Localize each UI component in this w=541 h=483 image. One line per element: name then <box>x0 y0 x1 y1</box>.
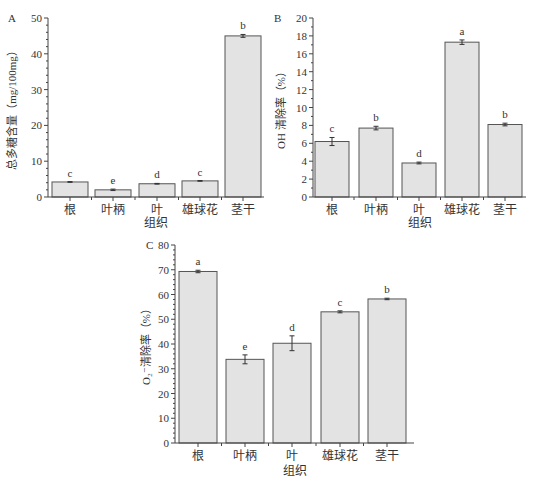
bar-C-4 <box>368 299 406 443</box>
y-tick-label: 16 <box>296 48 308 60</box>
category-label: 雄球花 <box>182 202 218 217</box>
y-tick-label: 0 <box>164 437 170 449</box>
category-label: 茎干 <box>231 203 255 217</box>
y-axis-title: 总多糖含量（mg/100mg） <box>5 45 18 170</box>
significance-label: c <box>338 296 343 308</box>
panel-label: A <box>8 12 16 24</box>
significance-label: b <box>373 111 379 123</box>
y-tick-label: 40 <box>158 338 170 350</box>
bar-C-0 <box>179 271 217 443</box>
y-axis-title: O₂⁻清除率（%） <box>139 303 152 385</box>
y-tick-label: 10 <box>158 412 170 424</box>
bar-A-0 <box>52 182 88 197</box>
bar-A-2 <box>139 184 175 197</box>
bar-B-3 <box>445 42 479 197</box>
y-tick-label: 20 <box>158 388 170 400</box>
x-axis-title: 组织 <box>144 216 168 230</box>
bar-C-1 <box>226 359 264 443</box>
panel-label: C <box>146 239 153 251</box>
y-tick-label: 50 <box>158 313 170 325</box>
category-label: 叶柄 <box>364 203 388 217</box>
category-label: 茎干 <box>493 203 517 217</box>
category-label: 叶 <box>151 203 163 217</box>
category-label: 根 <box>64 203 76 217</box>
y-tick-label: 12 <box>296 84 307 96</box>
category-label: 雄球花 <box>444 202 480 217</box>
significance-label: c <box>68 167 73 179</box>
bar-C-3 <box>321 312 359 443</box>
y-tick-label: 2 <box>302 173 308 185</box>
x-axis-title: 组织 <box>283 464 307 478</box>
y-tick-label: 18 <box>296 30 308 42</box>
bar-B-0 <box>315 142 349 197</box>
category-label: 叶 <box>286 449 298 463</box>
category-label: 雄球花 <box>322 448 358 463</box>
significance-label: d <box>416 147 422 159</box>
y-tick-label: 0 <box>302 191 308 203</box>
y-tick-label: 20 <box>296 12 308 24</box>
significance-label: a <box>460 25 465 37</box>
bar-C-2 <box>273 343 311 443</box>
category-label: 叶 <box>413 203 425 217</box>
category-label: 叶柄 <box>233 449 257 463</box>
panel-label: B <box>274 12 281 24</box>
significance-label: e <box>243 340 248 352</box>
y-tick-label: 50 <box>31 12 43 24</box>
y-tick-label: 30 <box>158 363 170 375</box>
category-label: 茎干 <box>375 449 399 463</box>
category-label: 叶柄 <box>101 203 125 217</box>
significance-label: e <box>111 174 116 186</box>
y-tick-label: 6 <box>302 137 308 149</box>
y-tick-label: 70 <box>158 264 170 276</box>
y-tick-label: 10 <box>31 155 43 167</box>
significance-label: b <box>240 19 246 31</box>
y-axis-title: OH 清除率（%） <box>274 66 287 149</box>
y-tick-label: 60 <box>158 289 170 301</box>
bar-A-4 <box>225 36 261 197</box>
y-tick-label: 0 <box>37 191 43 203</box>
significance-label: d <box>289 321 295 333</box>
significance-label: b <box>502 108 508 120</box>
y-tick-label: 14 <box>296 66 308 78</box>
bar-B-1 <box>359 128 393 197</box>
category-label: 根 <box>192 449 204 463</box>
significance-label: b <box>384 283 390 295</box>
category-label: 根 <box>326 203 338 217</box>
significance-label: d <box>154 168 160 180</box>
y-tick-label: 20 <box>31 119 43 131</box>
y-tick-label: 8 <box>302 119 308 131</box>
significance-label: c <box>330 122 335 134</box>
figure: c根e叶柄d叶c雄球花b茎干01020304050A组织总多糖含量（mg/100… <box>0 0 541 483</box>
significance-label: c <box>198 166 203 178</box>
y-tick-label: 80 <box>158 239 170 251</box>
bar-B-4 <box>488 125 522 197</box>
y-tick-label: 4 <box>302 155 308 167</box>
y-tick-label: 30 <box>31 84 43 96</box>
significance-label: a <box>196 255 201 267</box>
y-tick-label: 10 <box>296 102 308 114</box>
y-tick-label: 40 <box>31 48 43 60</box>
bar-B-2 <box>402 163 436 197</box>
x-axis-title: 组织 <box>408 216 432 230</box>
bar-A-3 <box>182 181 218 197</box>
